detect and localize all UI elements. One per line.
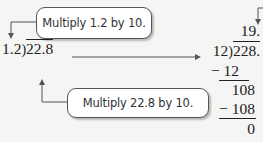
callout-multiply-dividend: Multiply 22.8 by 10. bbox=[67, 88, 209, 118]
callout-text: Multiply 22.8 by 10. bbox=[83, 96, 193, 110]
long-division-row: 12)228. bbox=[213, 42, 260, 60]
dividend: 228. bbox=[233, 41, 260, 59]
original-dividend: 22.8 bbox=[26, 39, 53, 57]
step-1-subtract: − 12 bbox=[211, 62, 239, 80]
callout-multiply-divisor: Multiply 1.2 by 10. bbox=[36, 7, 152, 39]
original-division: 1.2)22.8 bbox=[2, 40, 53, 58]
divisor: 12 bbox=[213, 42, 229, 59]
quotient: 19. bbox=[241, 22, 260, 40]
original-divisor: 1.2 bbox=[2, 40, 21, 57]
step-2-subtract: − 108 bbox=[219, 100, 255, 118]
step-1-remainder: 108 bbox=[232, 81, 255, 99]
callout-text: Multiply 1.2 by 10. bbox=[42, 16, 145, 30]
step-2-rule bbox=[219, 118, 256, 119]
step-2-remainder: 0 bbox=[247, 120, 255, 138]
